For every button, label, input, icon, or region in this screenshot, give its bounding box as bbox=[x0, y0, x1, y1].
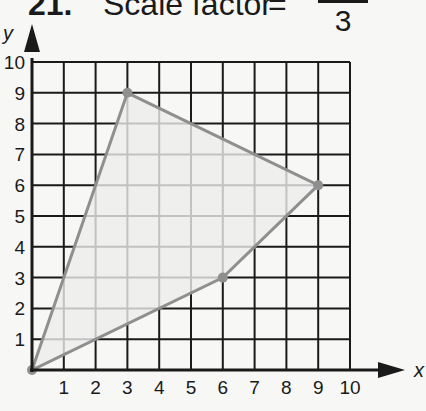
vertex-point bbox=[122, 88, 132, 98]
quadrilateral bbox=[32, 93, 318, 370]
x-tick-label: 7 bbox=[249, 377, 260, 398]
x-tick-label: 9 bbox=[313, 377, 324, 398]
coordinate-plane: y x 12345678910 12345678910 bbox=[0, 0, 426, 411]
x-tick-labels: 12345678910 bbox=[59, 377, 361, 398]
x-tick-label: 3 bbox=[122, 377, 133, 398]
y-tick-label: 9 bbox=[14, 83, 25, 104]
y-tick-label: 2 bbox=[14, 298, 25, 319]
vertex-point bbox=[313, 180, 323, 190]
y-tick-labels: 12345678910 bbox=[4, 52, 26, 350]
y-axis-arrow-icon bbox=[24, 24, 40, 52]
y-tick-label: 7 bbox=[14, 144, 25, 165]
vertex-point bbox=[218, 273, 228, 283]
y-tick-label: 1 bbox=[14, 329, 25, 350]
y-tick-label: 6 bbox=[14, 175, 25, 196]
x-tick-label: 4 bbox=[154, 377, 165, 398]
y-tick-label: 5 bbox=[14, 206, 25, 227]
y-tick-label: 8 bbox=[14, 114, 25, 135]
y-tick-label: 3 bbox=[14, 268, 25, 289]
x-axis-label: x bbox=[413, 359, 425, 381]
x-tick-label: 2 bbox=[90, 377, 101, 398]
y-tick-label: 10 bbox=[4, 52, 25, 73]
x-tick-label: 5 bbox=[186, 377, 197, 398]
y-axis-label: y bbox=[1, 22, 14, 44]
y-tick-label: 4 bbox=[14, 237, 25, 258]
x-tick-label: 6 bbox=[218, 377, 229, 398]
x-tick-label: 8 bbox=[281, 377, 292, 398]
x-tick-label: 1 bbox=[59, 377, 70, 398]
x-axis-arrow-icon bbox=[378, 362, 405, 378]
x-tick-label: 10 bbox=[339, 377, 360, 398]
